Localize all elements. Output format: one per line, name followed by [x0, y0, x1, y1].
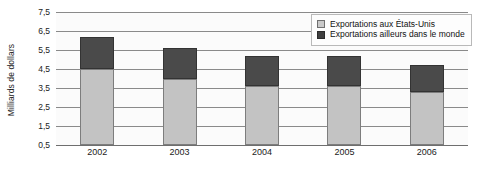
y-axis-tick-label: 5,5	[38, 45, 50, 55]
legend-item-exportations-ailleurs-monde: Exportations ailleurs dans le monde	[317, 30, 465, 39]
legend-item-exportations-etats-unis: Exportations aux États-Unis	[317, 20, 465, 29]
x-axis-tick-label: 2003	[170, 147, 190, 157]
chart-legend: Exportations aux États-Unis Exportations…	[311, 14, 472, 46]
dark-gray-square-icon	[317, 31, 325, 39]
bar-segment-exportations-etats-unis	[245, 86, 279, 145]
bar-segment-exportations-etats-unis	[410, 92, 444, 145]
gridline	[56, 145, 468, 146]
bar-group	[245, 12, 279, 145]
x-axis-tick-label: 2005	[334, 147, 354, 157]
legend-item-label: Exportations ailleurs dans le monde	[330, 30, 465, 39]
bar-segment-exportations-ailleurs-monde	[327, 56, 361, 86]
x-axis-tick-labels: 20022003200420052006	[56, 147, 468, 167]
light-gray-square-icon	[317, 20, 325, 28]
x-axis-tick-label: 2006	[417, 147, 437, 157]
y-axis-title: Milliards de dollars	[0, 0, 22, 160]
stacked-bar-chart: Milliards de dollars 0,51,52,53,54,55,56…	[0, 0, 485, 175]
bar-segment-exportations-ailleurs-monde	[245, 56, 279, 86]
bar-segment-exportations-etats-unis	[327, 86, 361, 145]
y-axis-tick-label: 0,5	[38, 140, 50, 150]
bar-group	[163, 12, 197, 145]
y-axis-tick-label: 4,5	[38, 64, 50, 74]
bar-segment-exportations-ailleurs-monde	[163, 48, 197, 78]
bar-segment-exportations-ailleurs-monde	[80, 37, 114, 69]
bar-group	[80, 12, 114, 145]
y-axis-tick-labels: 0,51,52,53,54,55,56,57,5	[24, 12, 52, 145]
y-axis-tick-label: 2,5	[38, 102, 50, 112]
y-axis-tick-label: 3,5	[38, 83, 50, 93]
y-axis-tick-label: 6,5	[38, 26, 50, 36]
bar-segment-exportations-ailleurs-monde	[410, 65, 444, 92]
legend-item-label: Exportations aux États-Unis	[330, 20, 435, 29]
bar-segment-exportations-etats-unis	[80, 69, 114, 145]
y-axis-title-label: Milliards de dollars	[6, 44, 16, 116]
x-axis-tick-label: 2004	[252, 147, 272, 157]
y-axis-tick-label: 1,5	[38, 121, 50, 131]
x-axis-tick-label: 2002	[87, 147, 107, 157]
bar-segment-exportations-etats-unis	[163, 79, 197, 146]
y-axis-tick-label: 7,5	[38, 7, 50, 17]
